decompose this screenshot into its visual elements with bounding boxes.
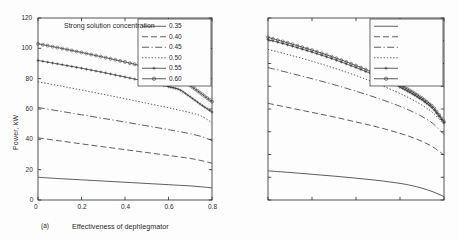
legend-label-0-55: 0.55: [169, 64, 182, 71]
y-tick-label: 0: [30, 196, 34, 203]
legend-label-0-50: 0.50: [169, 54, 182, 61]
series-line-0-40: [268, 103, 444, 155]
panel-b-plot: [230, 0, 459, 241]
legend-label-0-40: 0.40: [169, 33, 182, 40]
panel-a-y-axis-label: Power, kW: [12, 115, 19, 150]
x-tick-label: 0.6: [165, 203, 174, 210]
series-line-0-35: [38, 177, 212, 188]
x-tick-label: 0: [34, 203, 38, 210]
y-tick-label: 60: [26, 105, 33, 112]
panel-a-tag: (a): [41, 222, 49, 229]
legend-label-0-35: 0.35: [169, 22, 182, 29]
x-tick-label: 0.8: [208, 203, 217, 210]
legend-label-0-60: 0.60: [169, 75, 182, 82]
series-line-0-40: [38, 138, 212, 163]
legend-label-0-45: 0.45: [169, 43, 182, 50]
panel-b: Cycle energy efficiency, % Effectiveness…: [230, 0, 459, 241]
series-line-0-35: [268, 171, 444, 197]
y-tick-label: 80: [26, 75, 33, 82]
series-line-0-50: [38, 82, 212, 123]
x-tick-label: 0.4: [121, 203, 130, 210]
panel-a-x-axis-label: Effectiveness of dephlegmator: [72, 222, 169, 231]
y-tick-label: 120: [21, 14, 32, 21]
panel-a: Power, kW Effectiveness of dephlegmator …: [0, 0, 229, 241]
y-tick-label: 100: [21, 44, 32, 51]
series-line-0-45: [38, 107, 212, 140]
x-tick-label: 0.2: [78, 203, 87, 210]
y-tick-label: 40: [26, 135, 33, 142]
panel-a-title: Strong solution concentration: [64, 22, 155, 29]
y-tick-label: 20: [26, 166, 33, 173]
figure-two-panel-line-charts: Power, kW Effectiveness of dephlegmator …: [0, 0, 459, 241]
